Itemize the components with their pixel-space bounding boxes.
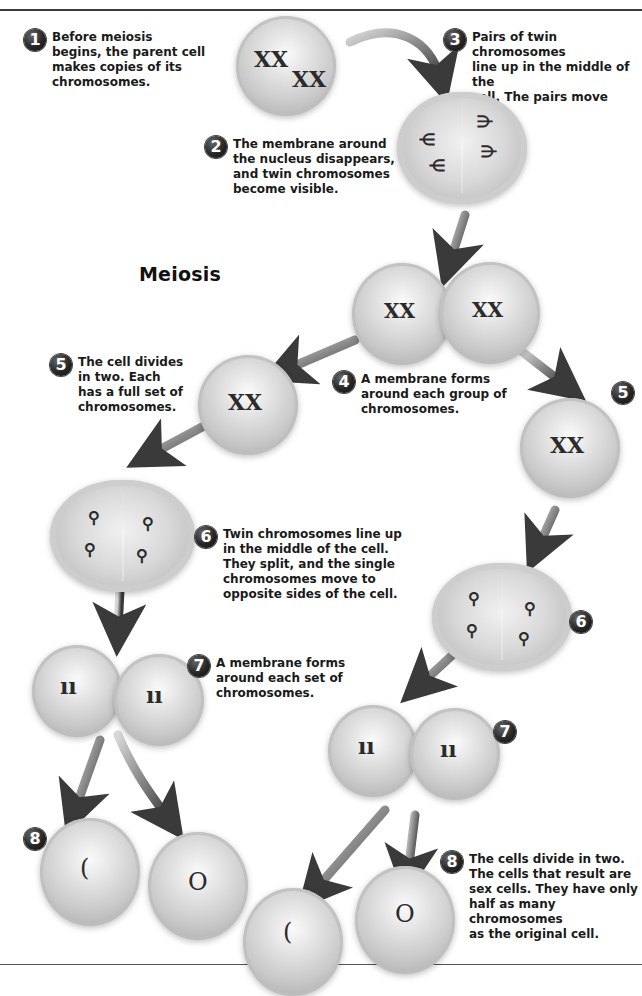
chromosome-icon: ⚲ xyxy=(468,589,480,608)
step-2: 2 The membrane around the nucleus disapp… xyxy=(205,137,395,197)
cell-step-7-left-a: ıı xyxy=(32,645,122,737)
arrow-6-to-7-left xyxy=(118,590,120,630)
dividing-cell-step-6-right: ⚲ ⚲ ⚲ ⚲ xyxy=(432,563,572,671)
sex-cell-left-b: O xyxy=(148,832,248,940)
chromosome-loop-icon: ( xyxy=(283,918,292,946)
step-7-text: A membrane forms around each set of chro… xyxy=(216,656,345,701)
step-8: 8 The cells divide in two. The cells tha… xyxy=(441,852,642,942)
step-1-text: Before meiosis begins, the parent cell m… xyxy=(52,30,205,90)
sex-cell-left-a: ( xyxy=(40,818,140,926)
chromosome-icon: ⚲ xyxy=(88,508,100,527)
step-1-badge: 1 xyxy=(24,29,46,51)
chromosome-pair-icon: XX xyxy=(550,432,584,458)
step-3-badge: 3 xyxy=(444,29,466,51)
step-4: 4 A membrane forms around each group of … xyxy=(333,372,507,417)
chromosome-pair-icon: XX xyxy=(472,298,503,322)
step-4-badge: 4 xyxy=(333,371,355,393)
step-6-text: Twin chromosomes line up in the middle o… xyxy=(223,527,402,602)
chromosome-icon: ⋺ xyxy=(477,112,493,131)
chromosome-pair-icon: XX xyxy=(292,66,326,92)
step-7-right-badge: 7 xyxy=(494,721,516,743)
arrow-7-to-8-right-b xyxy=(408,815,415,872)
chromosome-icon: ⋺ xyxy=(481,142,497,161)
step-6-right-badge: 6 xyxy=(570,611,592,633)
chromosome-pair-icon: ıı xyxy=(440,736,457,762)
cell-step-5-right: XX xyxy=(520,398,620,498)
cell-step-5-left: XX xyxy=(198,355,298,455)
arrow-4-to-5-right xyxy=(520,350,565,385)
step-5-right-badge: 5 xyxy=(612,382,634,404)
step-8-badge: 8 xyxy=(441,851,463,873)
dividing-cell-step-3: ⋲ ⋺ ⋺ ⋲ xyxy=(397,92,527,204)
chromosome-icon: ⚲ xyxy=(524,599,536,618)
chromosome-loop-icon: O xyxy=(188,868,208,896)
step-5-text: The cell divides in two. Each has a full… xyxy=(78,355,183,415)
step-4-text: A membrane forms around each group of ch… xyxy=(361,372,507,417)
sex-cell-right-b: O xyxy=(355,866,455,974)
step-7: 7 A membrane forms around each set of ch… xyxy=(188,656,345,701)
chromosome-pair-icon: XX xyxy=(228,389,262,415)
step-5: 5 The cell divides in two. Each has a fu… xyxy=(50,355,183,415)
chromosome-icon: ⚲ xyxy=(518,629,530,648)
step-8-left-badge: 8 xyxy=(24,828,46,850)
chromosome-icon: ⚲ xyxy=(84,540,96,559)
step-1: 1 Before meiosis begins, the parent cell… xyxy=(24,30,205,90)
arrow-4-to-5-left xyxy=(285,340,355,370)
step-8-text: The cells divide in two. The cells that … xyxy=(469,852,642,942)
chromosome-icon: ⚲ xyxy=(466,621,478,640)
arrow-5-to-6-right xyxy=(538,510,555,548)
step-7-badge: 7 xyxy=(188,655,210,677)
cell-step-7-right-a: ıı xyxy=(328,705,418,797)
step-5-badge: 5 xyxy=(50,354,72,376)
arrow-1-to-3 xyxy=(350,33,440,78)
chromosome-icon: ⚲ xyxy=(136,546,148,565)
dividing-cell-step-6-left: ⚲ ⚲ ⚲ ⚲ xyxy=(50,480,195,592)
step-6-badge: 6 xyxy=(195,526,217,548)
chromosome-icon: ⚲ xyxy=(142,514,154,533)
top-rule xyxy=(0,9,642,11)
step-2-text: The membrane around the nucleus disappea… xyxy=(233,137,395,197)
parent-cell: XX XX xyxy=(236,16,336,116)
step-2-badge: 2 xyxy=(205,136,227,158)
arrow-7-to-8-left-b xyxy=(118,735,168,818)
chromosome-icon: ⋲ xyxy=(419,130,435,149)
chromosome-pair-icon: ıı xyxy=(358,733,375,759)
cell-step-7-right-b: ıı xyxy=(410,708,500,800)
chromosome-icon: ⋲ xyxy=(429,156,445,175)
chromosome-pair-icon: ıı xyxy=(60,673,77,699)
chromosome-loop-icon: ( xyxy=(80,854,89,882)
chromosome-pair-icon: ıı xyxy=(146,682,163,708)
cell-step-4-right: XX xyxy=(440,262,540,364)
chromosome-pair-icon: XX xyxy=(384,299,415,323)
sex-cell-right-a: ( xyxy=(243,888,343,996)
page-title: Meiosis xyxy=(139,263,221,285)
chromosome-pair-icon: XX xyxy=(254,46,288,72)
cell-step-4-left: XX xyxy=(352,263,452,365)
arrow-3-to-4 xyxy=(450,215,465,262)
step-6: 6 Twin chromosomes line up in the middle… xyxy=(195,527,402,602)
arrow-7-to-8-left-a xyxy=(75,740,100,810)
chromosome-loop-icon: O xyxy=(395,900,415,928)
